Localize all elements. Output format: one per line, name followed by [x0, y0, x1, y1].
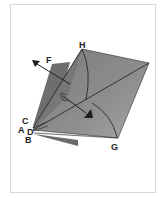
label-a: A — [18, 125, 25, 135]
unfold-arrow-head-icon — [32, 60, 40, 67]
label-h: H — [79, 40, 86, 50]
label-f: F — [46, 55, 52, 65]
label-g: G — [111, 142, 118, 152]
label-b: B — [25, 135, 32, 145]
origami-diagram: H F C A D B G — [0, 0, 160, 198]
